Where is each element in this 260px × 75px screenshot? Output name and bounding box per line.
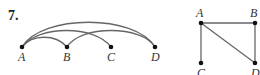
label-d: D (250, 66, 260, 75)
graph-diagrams: A B C D A B C D (0, 0, 260, 75)
node-d (153, 45, 158, 50)
node-a (199, 21, 204, 26)
label-c: C (197, 66, 206, 75)
label-d: D (150, 50, 160, 64)
label-a: A (195, 6, 204, 20)
label-c: C (107, 50, 116, 64)
node-c (199, 61, 204, 66)
node-d (253, 61, 258, 66)
node-b (253, 21, 258, 26)
edge-b-d (67, 31, 155, 48)
edge-a-d (201, 23, 255, 63)
label-b: B (63, 50, 71, 64)
right-graph: A B C D (195, 6, 260, 75)
node-a (20, 45, 25, 50)
node-c (109, 45, 114, 50)
label-b: B (250, 6, 258, 20)
left-graph: A B C D (17, 22, 160, 64)
node-b (65, 45, 70, 50)
label-a: A (17, 50, 26, 64)
